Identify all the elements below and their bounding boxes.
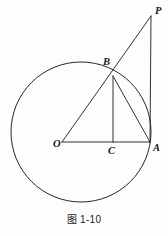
point-label-p: P bbox=[155, 6, 161, 17]
geometry-figure: P B O C A 图 1-10 bbox=[0, 0, 168, 236]
circle-shape bbox=[11, 62, 151, 202]
point-label-c: C bbox=[108, 146, 115, 157]
figure-caption: 图 1-10 bbox=[0, 211, 168, 226]
diagram-canvas bbox=[0, 0, 168, 236]
point-label-a: A bbox=[153, 143, 160, 154]
segment-ba bbox=[113, 76, 150, 142]
point-label-o: O bbox=[53, 139, 61, 150]
point-label-b: B bbox=[103, 57, 110, 68]
segment-op bbox=[62, 16, 151, 142]
